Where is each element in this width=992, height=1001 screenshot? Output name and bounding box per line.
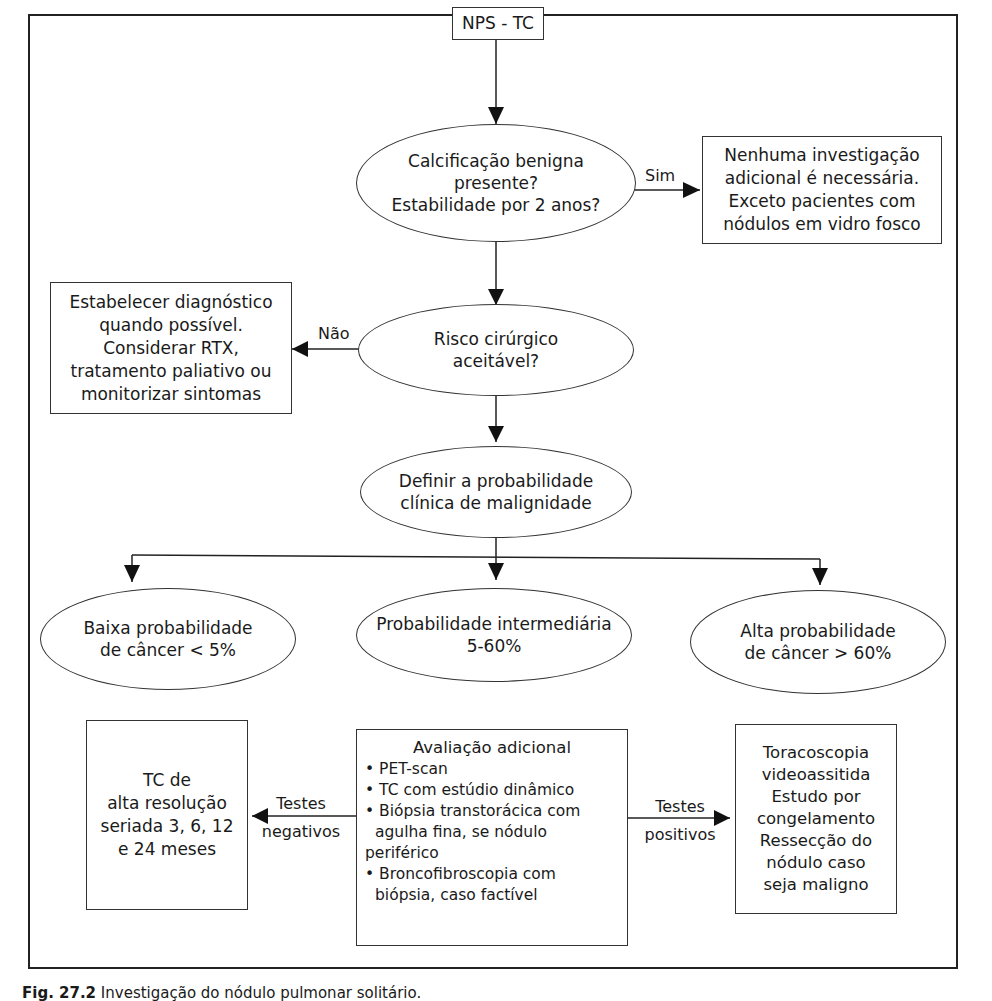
establish-diagnosis-box: Estabelecer diagnóstico quando possível.… — [50, 282, 292, 414]
additional-evaluation-box: Avaliação adicional • PET-scan • TC com … — [356, 729, 628, 946]
evaluation-item: biópsia, caso factível — [365, 885, 619, 906]
evaluation-item: periférico — [365, 843, 619, 864]
high-probability-line: Alta probabilidade — [740, 620, 895, 642]
edge-label-nao: Não — [318, 323, 350, 345]
low-probability-line: de câncer < 5% — [100, 639, 236, 661]
edge-label-positive-tests: Testes positivos — [640, 793, 720, 849]
surgical-risk-line: aceitável? — [453, 350, 539, 372]
low-probability-node: Baixa probabilidade de câncer < 5% — [40, 588, 296, 690]
diagnosis-line: Considerar RTX, — [103, 337, 239, 360]
diagnosis-line: monitorizar sintomas — [81, 383, 261, 406]
define-line: clínica de malignidade — [400, 492, 591, 514]
no-further-investigation-box: Nenhuma investigação adicional é necessá… — [702, 136, 942, 244]
calcification-line: presente? — [454, 172, 538, 194]
low-probability-line: Baixa probabilidade — [83, 617, 252, 639]
no-further-line: adicional é necessária. — [725, 167, 919, 190]
surgical-risk-decision: Risco cirúrgico aceitável? — [358, 304, 634, 396]
intermediate-probability-node: Probabilidade intermediária 5-60% — [356, 588, 632, 682]
hrct-line: seriada 3, 6, 12 — [101, 815, 234, 838]
evaluation-item: • PET-scan — [365, 759, 619, 780]
vats-line: Ressecção do — [760, 830, 872, 852]
additional-evaluation-title: Avaliação adicional — [413, 736, 571, 759]
vats-line: videoassitida — [762, 764, 871, 786]
evaluation-item: • Broncofibroscopia com — [365, 864, 619, 885]
evaluation-item: • Biópsia transtorácica com — [365, 801, 619, 822]
start-node-label: NPS - TC — [462, 12, 534, 35]
start-node: NPS - TC — [452, 7, 544, 40]
negative-tests-line: negativos — [256, 818, 346, 846]
high-probability-node: Alta probabilidade de câncer > 60% — [690, 590, 946, 694]
vats-line: Estudo por — [771, 786, 860, 808]
diagnosis-line: Estabelecer diagnóstico — [69, 291, 272, 314]
negative-tests-line: Testes — [256, 790, 346, 818]
hrct-line: TC de — [143, 769, 191, 792]
no-further-line: nódulos em vidro fosco — [723, 213, 921, 236]
no-further-line: Exceto pacientes com — [729, 190, 916, 213]
intermediate-probability-line: 5-60% — [467, 635, 522, 657]
vats-line: nódulo caso — [766, 852, 865, 874]
calcification-decision: Calcificação benigna presente? Estabilid… — [356, 124, 636, 242]
vats-resection-box: Toracoscopia videoassitida Estudo por co… — [735, 724, 897, 914]
hrct-followup-box: TC de alta resolução seriada 3, 6, 12 e … — [86, 720, 248, 910]
vats-line: seja maligno — [763, 874, 868, 896]
calcification-line: Estabilidade por 2 anos? — [392, 194, 601, 216]
edge-label-negative-tests: Testes negativos — [256, 790, 346, 846]
high-probability-line: de câncer > 60% — [745, 642, 892, 664]
no-further-line: Nenhuma investigação — [724, 144, 920, 167]
figure-caption-text: Investigação do nódulo pulmonar solitári… — [101, 984, 421, 1001]
edge-label-sim: Sim — [645, 165, 675, 187]
intermediate-probability-line: Probabilidade intermediária — [376, 613, 611, 635]
define-line: Definir a probabilidade — [399, 470, 593, 492]
diagnosis-line: tratamento paliativo ou — [71, 360, 272, 383]
positive-tests-line: positivos — [640, 821, 720, 849]
evaluation-item: • TC com estúdio dinâmico — [365, 780, 619, 801]
hrct-line: e 24 meses — [118, 838, 216, 861]
positive-tests-line: Testes — [640, 793, 720, 821]
figure-caption-label: Fig. 27.2 — [22, 984, 96, 1001]
evaluation-list: • PET-scan • TC com estúdio dinâmico • B… — [365, 759, 619, 906]
surgical-risk-line: Risco cirúrgico — [434, 328, 558, 350]
vats-line: Toracoscopia — [763, 742, 869, 764]
calcification-line: Calcificação benigna — [408, 150, 584, 172]
evaluation-item: agulha fina, se nódulo — [365, 822, 619, 843]
hrct-line: alta resolução — [107, 792, 227, 815]
define-probability-node: Definir a probabilidade clínica de malig… — [360, 446, 632, 538]
figure-caption: Fig. 27.2 Investigação do nódulo pulmona… — [22, 984, 421, 1001]
diagnosis-line: quando possível. — [99, 314, 243, 337]
vats-line: congelamento — [757, 808, 875, 830]
